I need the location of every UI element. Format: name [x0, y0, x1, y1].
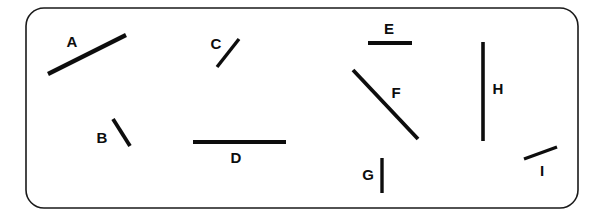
- segment-label-f: F: [391, 84, 400, 101]
- segment-label-b: B: [97, 129, 108, 146]
- segment-label-i: I: [540, 162, 544, 179]
- rounded-rectangle-border: [26, 8, 578, 208]
- segment-label-d: D: [231, 149, 242, 166]
- figure-canvas: ABCDEFGHI: [0, 0, 600, 218]
- segment-label-c: C: [211, 35, 222, 52]
- segment-label-e: E: [384, 20, 394, 37]
- segment-label-g: G: [362, 166, 374, 183]
- line-orientation-figure: ABCDEFGHI: [0, 0, 600, 218]
- segment-label-h: H: [493, 80, 504, 97]
- segment-label-a: A: [67, 33, 78, 50]
